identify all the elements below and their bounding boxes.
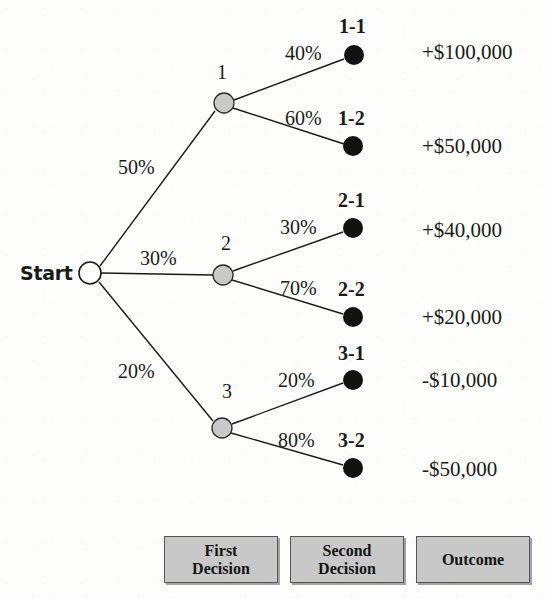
legend-line-1: First [192, 542, 250, 560]
decision-node-circle-3 [212, 418, 232, 438]
probability-label-1-1-1: 40% [285, 43, 322, 63]
terminal-node-label-1-2: 1-2 [338, 108, 365, 128]
probability-label-Start-1: 50% [118, 157, 155, 177]
payoff-label-1-1: +$100,000 [422, 42, 513, 63]
decision-tree-diagram: Start 50%30%20%40%60%30%70%20%80%1231-11… [0, 0, 553, 599]
probability-label-2-2-1: 30% [280, 217, 317, 237]
legend-box-text: Outcome [442, 551, 504, 569]
payoff-label-2-2: +$20,000 [422, 307, 502, 328]
decision-node-circle-2 [213, 265, 233, 285]
legend-line-2: Decision [318, 560, 376, 578]
legend-line-2: Decision [192, 560, 250, 578]
probability-label-Start-2: 30% [140, 248, 177, 268]
terminal-node-label-3-2: 3-2 [338, 430, 365, 450]
terminal-node-circle-3-2 [343, 458, 363, 478]
payoff-label-3-2: -$50,000 [422, 459, 497, 480]
payoff-label-2-1: +$40,000 [422, 220, 502, 241]
payoff-label-3-1: -$10,000 [422, 370, 497, 391]
probability-label-3-3-2: 80% [278, 430, 315, 450]
decision-node-label-1: 1 [217, 62, 227, 82]
payoff-label-1-2: +$50,000 [422, 136, 502, 157]
legend-box-second-decision: SecondDecision [290, 536, 404, 583]
legend-line-1: Second [318, 542, 376, 560]
branch-line-Start-to-3 [99, 282, 213, 421]
start-node-label: Start [20, 264, 73, 283]
legend-box-text: SecondDecision [318, 542, 376, 578]
terminal-node-label-3-1: 3-1 [338, 343, 365, 363]
terminal-node-circle-2-1 [343, 218, 363, 238]
decision-node-label-3: 3 [222, 381, 232, 401]
terminal-node-label-2-2: 2-2 [338, 279, 365, 299]
branch-line-1-to-1-1 [234, 59, 344, 100]
terminal-node-label-2-1: 2-1 [338, 190, 365, 210]
decision-node-label-2: 2 [221, 233, 231, 253]
legend-line-1: Outcome [442, 551, 504, 569]
decision-node-circle-1 [214, 93, 234, 113]
terminal-node-circle-2-2 [343, 307, 363, 327]
terminal-node-label-1-1: 1-1 [339, 16, 366, 36]
probability-label-1-1-2: 60% [285, 108, 322, 128]
legend-box-first-decision: FirstDecision [164, 536, 278, 583]
legend-box-text: FirstDecision [192, 542, 250, 578]
probability-label-3-3-1: 20% [278, 370, 315, 390]
branch-line-Start-to-1 [100, 111, 215, 266]
terminal-node-circle-3-1 [343, 370, 363, 390]
probability-label-Start-3: 20% [118, 361, 155, 381]
branch-line-Start-to-2 [101, 273, 213, 275]
legend-box-outcome: Outcome [416, 536, 530, 583]
terminal-node-circle-1-1 [344, 45, 364, 65]
start-node-circle [79, 262, 101, 284]
terminal-node-circle-1-2 [343, 136, 363, 156]
probability-label-2-2-2: 70% [280, 278, 317, 298]
tree-edges-and-nodes [0, 0, 553, 599]
